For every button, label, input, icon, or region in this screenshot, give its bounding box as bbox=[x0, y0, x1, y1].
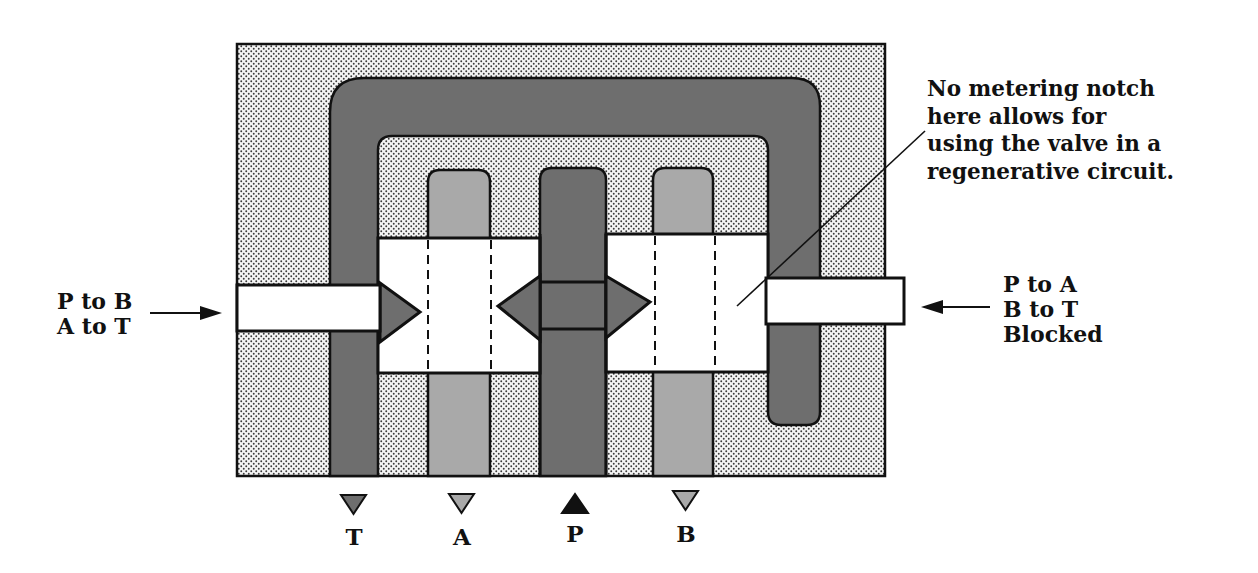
port-label-b: B bbox=[666, 520, 706, 547]
left-arrow-icon bbox=[921, 300, 990, 314]
port-label-t: T bbox=[334, 523, 374, 550]
left-actuation-label: P to B A to T bbox=[57, 289, 132, 339]
regenerative-note: No metering notch here allows for using … bbox=[927, 75, 1174, 185]
port-b-down-triangle-icon bbox=[673, 491, 698, 510]
right-arrow-icon bbox=[150, 306, 222, 320]
right-actuation-line: B to T bbox=[1003, 297, 1103, 322]
port-label-p: P bbox=[555, 520, 595, 547]
note-line: regenerative circuit. bbox=[927, 158, 1174, 186]
note-line: here allows for bbox=[927, 103, 1174, 131]
right-actuation-label: P to A B to T Blocked bbox=[1003, 272, 1103, 347]
spool-end-left bbox=[237, 285, 380, 331]
right-actuation-line: P to A bbox=[1003, 272, 1103, 297]
left-actuation-line: P to B bbox=[57, 289, 132, 314]
left-actuation-line: A to T bbox=[57, 314, 132, 339]
note-line: No metering notch bbox=[927, 75, 1174, 103]
port-label-a: A bbox=[442, 523, 482, 550]
port-a-down-triangle-icon bbox=[449, 494, 474, 513]
spool-center-land bbox=[540, 282, 606, 329]
spool-end-right bbox=[766, 278, 904, 324]
port-p-up-triangle-icon bbox=[562, 494, 588, 513]
port-t-down-triangle-icon bbox=[341, 495, 366, 514]
note-line: using the valve in a bbox=[927, 130, 1174, 158]
right-actuation-line: Blocked bbox=[1003, 322, 1103, 347]
